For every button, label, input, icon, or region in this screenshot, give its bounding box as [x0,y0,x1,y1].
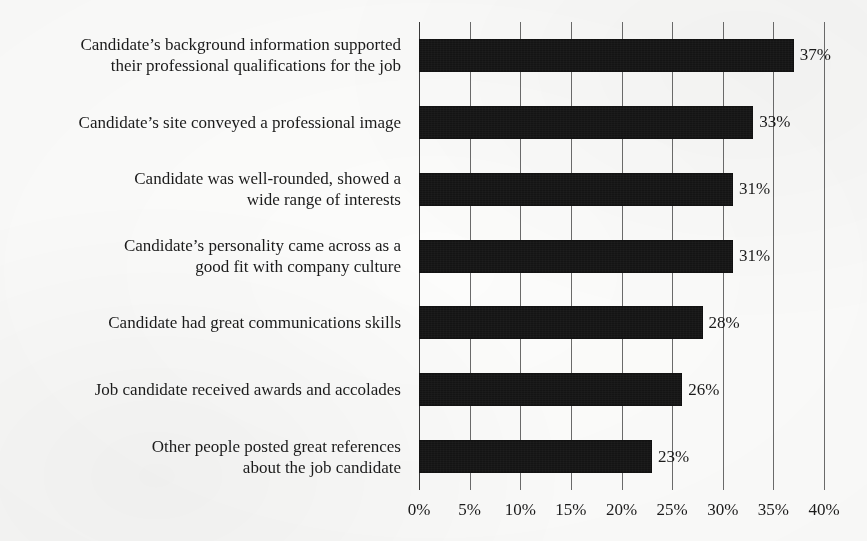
bar-row: 33% [419,106,824,139]
category-label: Candidate’s personality came across as a… [124,235,401,277]
plot-area: 37%33%31%31%28%26%23% [419,22,824,490]
bar-series: 37%33%31%31%28%26%23% [419,22,824,490]
x-tick-label: 30% [707,500,738,520]
bar-value-label: 23% [652,447,689,467]
bar-row: 31% [419,240,824,273]
bar[interactable] [419,240,733,273]
chart-title [0,0,867,3]
x-tick-label: 35% [758,500,789,520]
bar[interactable] [419,39,794,72]
bar[interactable] [419,440,652,473]
bar[interactable] [419,106,753,139]
gridline-40 [824,22,825,490]
bar-value-label: 28% [703,313,740,333]
category-label: Candidate had great communications skill… [108,312,401,333]
x-tick-label: 20% [606,500,637,520]
bar-value-label: 31% [733,179,770,199]
bar-value-label: 37% [794,45,831,65]
category-label: Job candidate received awards and accola… [95,379,401,400]
bar-row: 26% [419,373,824,406]
category-label: Candidate’s background information suppo… [80,34,401,76]
category-label: Candidate was well-rounded, showed a wid… [134,168,401,210]
bar-value-label: 33% [753,112,790,132]
bar-row: 37% [419,39,824,72]
category-axis-labels: Candidate’s background information suppo… [0,22,410,490]
x-tick-label: 10% [505,500,536,520]
x-tick-label: 40% [808,500,839,520]
x-tick-label: 5% [458,500,481,520]
category-label: Other people posted great references abo… [152,436,401,478]
x-tick-label: 25% [657,500,688,520]
x-tick-label: 0% [408,500,431,520]
bar[interactable] [419,306,703,339]
bar-row: 31% [419,173,824,206]
bar-value-label: 26% [682,380,719,400]
category-label: Candidate’s site conveyed a professional… [79,112,401,133]
x-axis-tick-labels: 0%5%10%15%20%25%30%35%40% [419,500,824,526]
chart-container: Candidate’s background information suppo… [0,0,867,541]
bar[interactable] [419,373,682,406]
bar-row: 23% [419,440,824,473]
bar-value-label: 31% [733,246,770,266]
x-tick-label: 15% [555,500,586,520]
bar-row: 28% [419,306,824,339]
bar[interactable] [419,173,733,206]
